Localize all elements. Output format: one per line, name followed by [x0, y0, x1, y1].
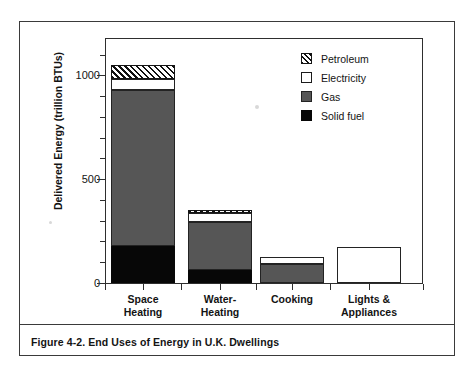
- y-tick-minor: [100, 241, 105, 242]
- y-tick-minor: [100, 262, 105, 263]
- x-tick: [143, 284, 144, 290]
- x-tick: [220, 284, 221, 290]
- bar-segment-solid-fuel: [111, 246, 175, 283]
- legend-label: Gas: [321, 91, 340, 103]
- y-tick-label: 500: [56, 173, 100, 185]
- legend-item-electricity: Electricity: [301, 69, 431, 86]
- legend-item-solid-fuel: Solid fuel: [301, 107, 431, 124]
- chart-legend: PetroleumElectricityGasSolid fuel: [301, 50, 431, 126]
- bar-segment-gas: [260, 264, 324, 283]
- bar-segment-gas: [188, 222, 252, 270]
- bar-segment-solid-fuel: [188, 270, 252, 283]
- y-tick-minor: [100, 138, 105, 139]
- gray-swatch: [301, 91, 312, 102]
- bar-cooking: [260, 257, 324, 283]
- legend-label: Solid fuel: [321, 110, 364, 122]
- y-tick-minor: [100, 117, 105, 118]
- bar-segment-electricity: [260, 257, 324, 264]
- legend-item-gas: Gas: [301, 88, 431, 105]
- y-tick-minor: [100, 158, 105, 159]
- figure-caption: Figure 4-2. End Uses of Energy in U.K. D…: [31, 336, 441, 348]
- hatched-swatch: [301, 53, 312, 64]
- x-axis-label-line: Lights &: [321, 293, 417, 306]
- x-tick-edge: [105, 284, 106, 290]
- x-tick-separator: [256, 284, 257, 290]
- bar-lights-appliances: [337, 247, 401, 283]
- bar-segment-petroleum: [111, 65, 175, 79]
- bar-segment-electricity: [111, 79, 175, 90]
- bar-segment-gas: [111, 90, 175, 246]
- y-tick-major: [97, 75, 105, 76]
- chart-plot-area: Delivered Energy (trillion BTUs) 0500100…: [19, 21, 455, 324]
- bar-space-heating: [111, 65, 175, 283]
- x-axis-label-line: Heating: [172, 306, 268, 319]
- open-swatch: [301, 72, 312, 83]
- bar-water-heating: [188, 210, 252, 283]
- legend-item-petroleum: Petroleum: [301, 50, 431, 67]
- x-tick: [292, 284, 293, 290]
- x-tick-separator: [330, 284, 331, 290]
- y-tick-major: [97, 283, 105, 284]
- figure-divider: [19, 324, 455, 325]
- bar-segment-petroleum: [188, 210, 252, 213]
- bar-segment-electricity: [188, 213, 252, 222]
- black-swatch: [301, 110, 312, 121]
- x-tick-separator: [181, 284, 182, 290]
- legend-label: Petroleum: [321, 53, 369, 65]
- x-tick-edge: [423, 284, 424, 290]
- bar-segment-electricity: [337, 247, 401, 283]
- y-tick-minor: [100, 96, 105, 97]
- y-tick-minor: [100, 55, 105, 56]
- y-tick-minor: [100, 221, 105, 222]
- x-axis-label-line: Appliances: [321, 306, 417, 319]
- y-tick-label: 1000: [56, 69, 100, 81]
- x-axis-label: Lights &Appliances: [321, 293, 417, 318]
- legend-label: Electricity: [321, 72, 366, 84]
- y-tick-label: 0: [56, 277, 100, 289]
- x-tick: [369, 284, 370, 290]
- y-tick-minor: [100, 200, 105, 201]
- y-tick-major: [97, 179, 105, 180]
- y-tick-label-group: 05001000: [52, 21, 100, 324]
